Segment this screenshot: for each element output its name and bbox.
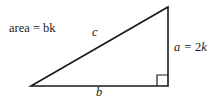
vertical-leg-label-a: a = 2k <box>174 41 207 54</box>
area-label: area = bk <box>9 22 56 35</box>
triangle-outline <box>31 7 168 86</box>
triangle-figure: area = bk c a = 2k b <box>0 0 214 101</box>
hypotenuse-label-c: c <box>92 26 98 39</box>
right-angle-marker-icon <box>157 75 168 86</box>
vertical-leg-unit: k <box>201 40 207 54</box>
base-label-b: b <box>96 86 102 99</box>
vertical-leg-equals: = <box>180 40 195 54</box>
